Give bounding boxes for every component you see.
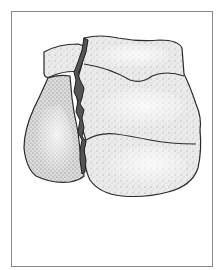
main-bone-body (76, 36, 201, 197)
bone-fracture-illustration (0, 0, 224, 270)
